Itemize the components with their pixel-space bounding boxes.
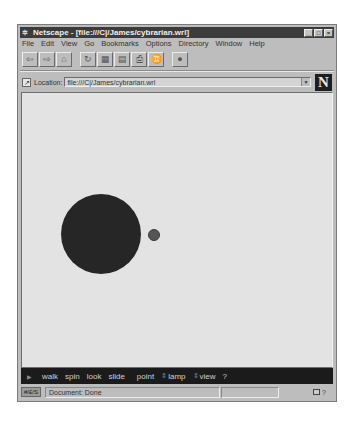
menu-go[interactable]: Go xyxy=(84,39,94,49)
back-button[interactable]: ⇦ xyxy=(22,52,38,67)
location-input[interactable]: file:///C|/James/cybrarian.wrl ▼ xyxy=(64,77,311,87)
nav-slide[interactable]: slide xyxy=(108,372,124,381)
open-button[interactable]: ▤ xyxy=(114,52,130,67)
back-arrow-icon: ⇦ xyxy=(26,54,34,64)
large-sphere[interactable] xyxy=(61,194,141,274)
nav-point[interactable]: point xyxy=(137,372,154,381)
location-bar: ↗ Location: file:///C|/James/cybrarian.w… xyxy=(22,74,332,90)
page-proxy-icon[interactable]: ↗ xyxy=(22,78,31,87)
forward-button[interactable]: ⇨ xyxy=(39,52,55,67)
location-label: Location: xyxy=(34,79,62,86)
stop-icon: ● xyxy=(177,54,182,64)
print-button[interactable]: ⎙ xyxy=(131,52,147,67)
maximize-button[interactable]: □ xyxy=(314,29,323,37)
window-controls: _ □ × xyxy=(304,29,333,37)
updown-arrows-icon: ⇕ xyxy=(161,372,167,380)
minimize-button[interactable]: _ xyxy=(304,29,313,37)
open-icon: ▤ xyxy=(118,54,127,64)
nav-help[interactable]: ? xyxy=(223,372,227,381)
nav-look[interactable]: look xyxy=(87,372,102,381)
nav-lamp[interactable]: lamp xyxy=(168,372,185,381)
menu-file[interactable]: File xyxy=(22,39,34,49)
toolbar: ⇦ ⇨ ⌂ ↻ ▦ ▤ ⎙ ♊ ● xyxy=(22,50,332,68)
play-icon[interactable]: ▶ xyxy=(27,373,33,380)
mail-icon[interactable] xyxy=(313,389,320,395)
images-button[interactable]: ▦ xyxy=(97,52,113,67)
security-key-icon[interactable]: #/£/S xyxy=(21,387,41,397)
home-icon: ⌂ xyxy=(61,54,66,64)
stop-button[interactable]: ● xyxy=(172,52,188,67)
netscape-icon: ✲ xyxy=(22,29,31,37)
menu-options[interactable]: Options xyxy=(146,39,172,49)
menu-help[interactable]: Help xyxy=(249,39,264,49)
netscape-logo[interactable]: N xyxy=(315,74,332,91)
close-button[interactable]: × xyxy=(324,29,333,37)
binoculars-icon: ♊ xyxy=(151,54,162,64)
toolbar-divider xyxy=(20,70,334,72)
title-bar[interactable]: ✲ Netscape - [file:///C|/James/cybrarian… xyxy=(20,27,334,38)
menu-edit[interactable]: Edit xyxy=(41,39,54,49)
menu-view[interactable]: View xyxy=(61,39,77,49)
printer-icon: ⎙ xyxy=(136,54,143,65)
nav-spin[interactable]: spin xyxy=(65,372,80,381)
status-bar: #/£/S Document: Done ? xyxy=(21,385,333,399)
menu-bar: File Edit View Go Bookmarks Options Dire… xyxy=(22,39,332,49)
find-button[interactable]: ♊ xyxy=(148,52,164,67)
browser-window: ✲ Netscape - [file:///C|/James/cybrarian… xyxy=(17,24,337,402)
nav-walk[interactable]: walk xyxy=(42,372,58,381)
status-text: Document: Done xyxy=(45,387,220,398)
location-url: file:///C|/James/cybrarian.wrl xyxy=(67,79,155,86)
menu-directory[interactable]: Directory xyxy=(179,39,209,49)
reload-button[interactable]: ↻ xyxy=(80,52,96,67)
nav-view[interactable]: view xyxy=(200,372,216,381)
images-icon: ▦ xyxy=(101,54,110,64)
vrml-navigation-bar: ▶ walk spin look slide point ⇕ lamp ⇕ vi… xyxy=(21,368,333,384)
menu-window[interactable]: Window xyxy=(216,39,243,49)
menu-bookmarks[interactable]: Bookmarks xyxy=(101,39,139,49)
forward-arrow-icon: ⇨ xyxy=(43,54,51,64)
window-title: Netscape - [file:///C|/James/cybrarian.w… xyxy=(33,27,304,38)
updown-arrows-icon: ⇕ xyxy=(193,372,199,380)
location-dropdown-icon[interactable]: ▼ xyxy=(301,78,310,86)
progress-field xyxy=(221,387,279,398)
small-sphere[interactable] xyxy=(148,229,160,241)
status-icons: ? xyxy=(280,387,326,398)
home-button[interactable]: ⌂ xyxy=(56,52,72,67)
help-icon[interactable]: ? xyxy=(322,388,326,397)
reload-icon: ↻ xyxy=(84,54,92,64)
vrml-viewport[interactable] xyxy=(21,92,333,368)
